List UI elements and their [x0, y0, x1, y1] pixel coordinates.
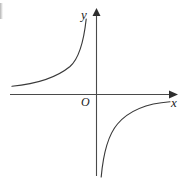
y-axis-label: y — [81, 8, 87, 21]
hyperbola-branch-quadrant-4 — [101, 102, 170, 177]
coordinate-plot — [0, 0, 187, 180]
x-axis-label: x — [171, 96, 177, 109]
origin-label: O — [81, 96, 90, 108]
hyperbola-figure: y x O — [0, 0, 187, 180]
hyperbola-branch-quadrant-2 — [12, 19, 86, 86]
y-axis-arrow-icon — [93, 8, 101, 16]
